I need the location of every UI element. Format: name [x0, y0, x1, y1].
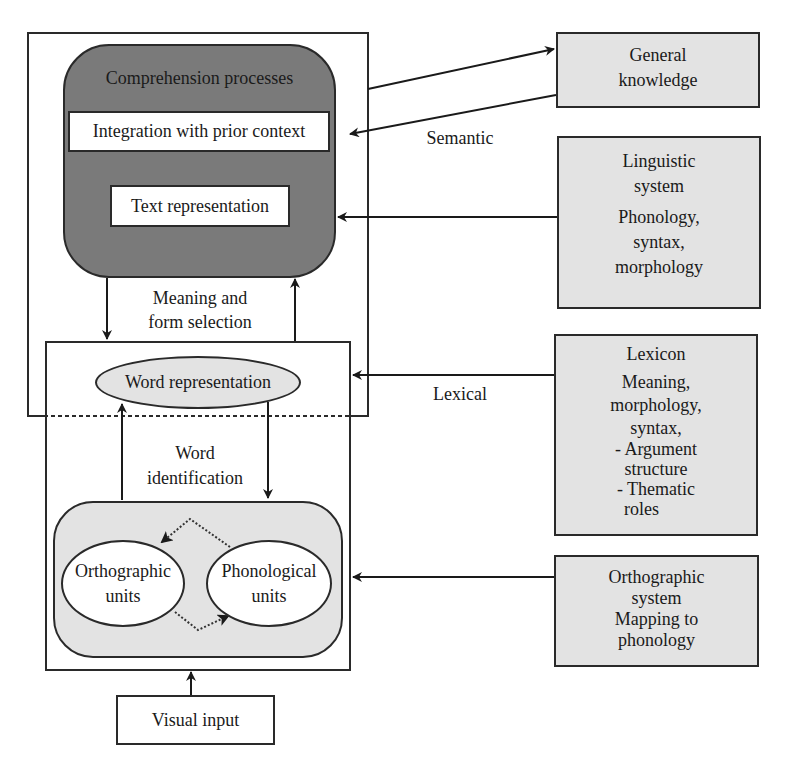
integration-with-prior-context-box: Integration with prior context — [68, 111, 330, 152]
visual-input-box: Visual input — [116, 695, 275, 745]
meaning-form-selection-label: Meaning and form selection — [120, 288, 280, 332]
integration-label: Integration with prior context — [93, 121, 305, 142]
word-identification-label: Word identification — [130, 443, 260, 488]
linguistic-system-box: Linguistic system Phonology, syntax, mor… — [557, 136, 761, 309]
text-representation-label: Text representation — [131, 196, 269, 217]
semantic-label: Semantic — [410, 128, 510, 148]
phonological-units-ellipse: Phonological units — [206, 540, 332, 627]
general-knowledge-box: General knowledge — [556, 32, 760, 108]
text-representation-box: Text representation — [110, 185, 290, 227]
orthographic-units-ellipse: Orthographic units — [61, 540, 185, 627]
comprehension-title: Comprehension processes — [63, 68, 336, 88]
lexicon-box: Lexicon Meaning, morphology, syntax, - A… — [554, 334, 758, 536]
arrow-to-general-knowledge — [368, 49, 554, 89]
orthographic-system-box: Orthographic system Mapping to phonology — [554, 555, 759, 667]
lexical-label: Lexical — [415, 384, 505, 404]
word-representation-ellipse: Word representation — [95, 356, 301, 409]
